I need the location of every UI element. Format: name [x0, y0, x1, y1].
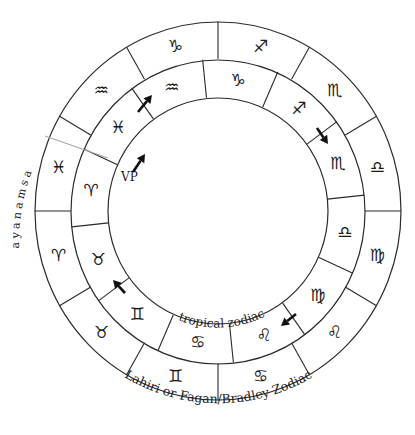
- sign-capricorn-icon: ♑︎: [168, 36, 183, 56]
- middle-divider: [283, 303, 305, 334]
- sign-pisces-icon: ♓︎: [111, 117, 126, 137]
- ayanamsa-label: ayanamsa: [9, 165, 36, 248]
- sign-cancer-icon: ♋︎: [190, 332, 205, 352]
- tropical-zodiac-label: tropical zodiac: [177, 306, 267, 330]
- ayanamsa-text: ayanamsa: [9, 165, 36, 248]
- middle-divider: [158, 315, 173, 350]
- sign-libra-icon: ♎︎: [370, 157, 385, 177]
- sign-cancer-icon: ♋︎: [253, 366, 268, 386]
- ayanamsa-line: [45, 136, 108, 158]
- sign-leo-icon: ♌︎: [256, 325, 271, 345]
- outer-divider: [345, 116, 376, 135]
- sign-libra-icon: ♎︎: [337, 222, 352, 242]
- middle-divider: [229, 324, 233, 362]
- sign-sagittarius-icon: ♐︎: [291, 98, 306, 118]
- inner-ring-circle: [108, 98, 328, 324]
- sign-leo-icon: ♌︎: [327, 322, 342, 342]
- middle-divider: [318, 257, 352, 273]
- sign-taurus-icon: ♉︎: [90, 249, 105, 269]
- outer-ring-dividers: [35, 22, 401, 401]
- middle-divider: [263, 72, 278, 107]
- middle-divider: [203, 60, 207, 98]
- sign-virgo-icon: ♍︎: [310, 285, 325, 305]
- sign-pisces-icon: ♓︎: [51, 157, 66, 177]
- sign-gemini-icon: ♊︎: [168, 366, 183, 386]
- outer-divider: [60, 287, 91, 306]
- zodiac-diagram: ♎︎♏︎♐︎♑︎♒︎♓︎♈︎♉︎♊︎♋︎♌︎♍︎ ♎︎♏︎♐︎♑︎♒︎♓︎♈︎♉…: [0, 0, 415, 435]
- sign-aquarius-icon: ♒︎: [94, 80, 109, 100]
- sign-virgo-icon: ♍︎: [370, 245, 385, 265]
- sign-gemini-icon: ♊︎: [130, 304, 145, 324]
- arrow-capricorn-aquarius-icon: [138, 95, 152, 112]
- zodiac-rings: [35, 22, 401, 400]
- sign-scorpio-icon: ♏︎: [327, 80, 342, 100]
- sign-taurus-icon: ♉︎: [94, 322, 109, 342]
- sign-aries-icon: ♈︎: [51, 245, 66, 265]
- outer-divider: [292, 47, 310, 79]
- middle-divider: [327, 195, 364, 199]
- outer-ring-circle: [35, 22, 401, 400]
- outer-divider: [127, 47, 145, 79]
- sign-aries-icon: ♈︎: [83, 180, 98, 200]
- vernal-point-label: VP: [120, 170, 138, 184]
- tropical-zodiac-signs: ♎︎♏︎♐︎♑︎♒︎♓︎♈︎♉︎♊︎♋︎♌︎♍︎: [83, 70, 352, 353]
- sign-aquarius-icon: ♒︎: [164, 77, 179, 97]
- sign-sagittarius-icon: ♐︎: [253, 36, 268, 56]
- sign-scorpio-icon: ♏︎: [330, 153, 345, 173]
- sidereal-zodiac-signs: ♎︎♏︎♐︎♑︎♒︎♓︎♈︎♉︎♊︎♋︎♌︎♍︎: [51, 36, 385, 386]
- tropical-zodiac-text: tropical zodiac: [177, 306, 267, 330]
- sign-capricorn-icon: ♑︎: [230, 70, 245, 90]
- arrow-leo-virgo-icon: [281, 314, 296, 326]
- outer-divider: [60, 116, 91, 135]
- middle-divider: [72, 223, 109, 227]
- outer-divider: [345, 287, 376, 306]
